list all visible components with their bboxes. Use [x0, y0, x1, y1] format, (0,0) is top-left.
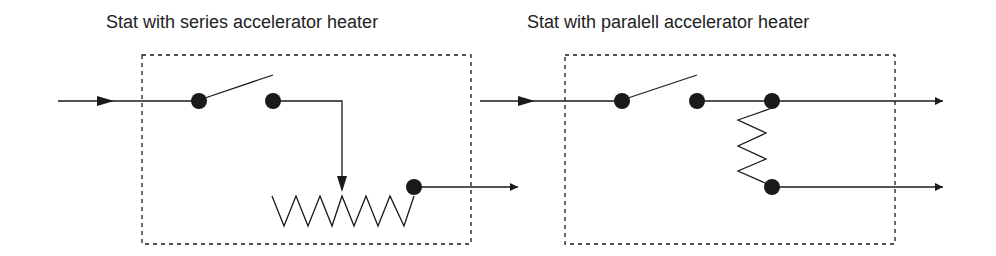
parallel-circuit — [480, 55, 943, 244]
series-switch-terminal-1 — [191, 93, 207, 109]
series-enclosure-box — [142, 55, 471, 244]
circuit-diagrams — [0, 0, 996, 256]
series-resistor-zigzag — [272, 196, 414, 226]
parallel-enclosure-box — [565, 55, 895, 244]
series-input-arrow-icon — [97, 96, 114, 106]
parallel-switch-blade — [628, 75, 697, 98]
parallel-switch-terminal-1 — [614, 93, 630, 109]
parallel-input-arrow-icon — [518, 96, 535, 106]
series-switch-blade — [205, 75, 273, 98]
parallel-resistor-zigzag — [738, 108, 772, 186]
series-wiper-arrow-icon — [337, 176, 347, 192]
series-wiper-wire — [273, 101, 342, 180]
series-circuit — [58, 55, 518, 244]
